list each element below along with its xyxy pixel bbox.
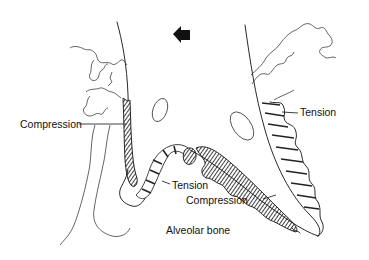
label-tension-right: Tension (300, 106, 336, 118)
bone-island (183, 148, 196, 164)
tooth-movement-diagram: Compression Tension Tension Compression … (0, 0, 369, 260)
pulp-outline-left (149, 96, 170, 123)
left-arrow-icon (173, 26, 190, 43)
label-tension-center: Tension (172, 179, 208, 191)
label-compression-bottom: Compression (186, 194, 248, 206)
pulp-outline-center (225, 108, 258, 145)
label-alveolar-bone: Alveolar bone (166, 224, 230, 236)
upper-left-bone-contour (70, 46, 127, 116)
compression-zone-left (123, 98, 137, 186)
label-compression-left: Compression (20, 118, 82, 130)
left-cortical-bone (60, 125, 130, 245)
upper-right-bone-contour (251, 24, 336, 100)
